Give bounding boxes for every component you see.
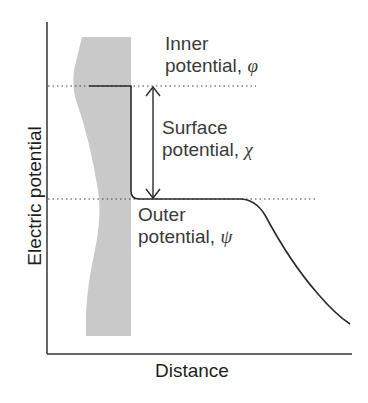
y-axis-label: Electric potential <box>24 106 46 286</box>
outer-label-line1: Outer <box>138 204 232 226</box>
surface-label-line2: potential, χ <box>162 139 253 161</box>
phi-symbol: φ <box>247 55 258 76</box>
x-axis-label: Distance <box>155 360 229 382</box>
surface-label-line1: Surface <box>162 117 253 139</box>
phase-shaded-region <box>73 37 131 336</box>
inner-label-line2: potential, φ <box>165 55 258 77</box>
inner-label-text: potential, <box>165 55 247 76</box>
inner-label-line1: Inner <box>165 33 258 55</box>
surface-label-text: potential, <box>162 139 244 160</box>
surface-potential-arrow <box>146 87 160 198</box>
surface-potential-label: Surface potential, χ <box>162 117 253 161</box>
inner-potential-label: Inner potential, φ <box>165 33 258 77</box>
outer-label-line2: potential, ψ <box>138 226 232 248</box>
outer-label-text: potential, <box>138 226 220 247</box>
psi-symbol: ψ <box>220 226 232 247</box>
chi-symbol: χ <box>244 139 252 160</box>
outer-potential-label: Outer potential, ψ <box>138 204 232 248</box>
